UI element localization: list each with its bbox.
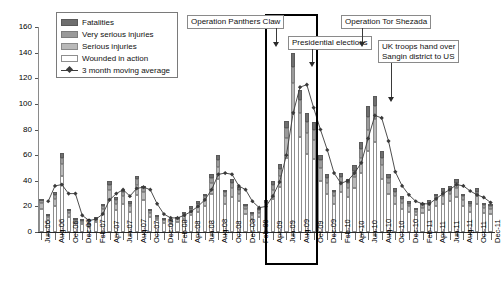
bar-segment — [454, 179, 458, 183]
legend-label-very-serious-injuries: Very serious injuries — [82, 30, 154, 39]
x-tick-label: Oct-06 — [72, 220, 80, 243]
bar-Feb-08 — [175, 217, 179, 232]
bar-segment — [121, 196, 125, 204]
x-tick-label: Aug-10 — [385, 219, 393, 243]
bar-segment — [141, 188, 145, 192]
bar-segment — [135, 176, 139, 180]
moving-average-marker — [128, 194, 132, 198]
x-tick-label: Dec-10 — [412, 219, 420, 243]
bar-segment — [434, 200, 438, 206]
bar-segment — [121, 190, 125, 193]
x-tick-label: Dec-06 — [85, 219, 93, 243]
annotation-text-sangin-line1: UK troops hand over — [382, 42, 455, 52]
x-tick-mark — [409, 233, 410, 240]
bar-segment — [196, 206, 200, 211]
bar-segment — [182, 212, 186, 214]
bar-segment — [175, 217, 179, 219]
bar-segment — [101, 204, 105, 207]
moving-average-marker — [318, 127, 322, 131]
y-tick-mark — [35, 232, 38, 233]
moving-average-marker — [461, 184, 465, 188]
bar-segment — [339, 173, 343, 177]
x-tick-mark — [69, 233, 70, 240]
highlight-box-presidential-period — [265, 14, 318, 265]
x-tick-mark — [55, 233, 56, 240]
y-tick-mark — [35, 53, 38, 54]
bar-segment — [318, 160, 322, 168]
bar-segment — [107, 185, 111, 190]
x-tick-label: Jun-07 — [126, 220, 134, 243]
bar-segment — [223, 196, 227, 204]
bar-segment — [448, 190, 452, 194]
x-tick-mark — [137, 233, 138, 240]
bar-segment — [114, 204, 118, 210]
x-tick-label: Feb-08 — [181, 219, 189, 243]
y-tick-label: 0 — [8, 228, 32, 236]
bar-segment — [332, 196, 336, 204]
bar-segment — [39, 199, 43, 201]
moving-average-marker — [482, 195, 486, 199]
chart-legend: Fatalities Very serious injuries Serious… — [56, 12, 178, 78]
x-tick-mark — [246, 233, 247, 240]
bar-segment — [189, 206, 193, 209]
bar-segment — [175, 222, 179, 232]
legend-swatch-serious-injuries — [61, 43, 78, 50]
moving-average-marker — [468, 189, 472, 193]
x-tick-label: Apr-11 — [439, 221, 447, 243]
moving-average-marker — [80, 213, 84, 217]
bar-May-10 — [359, 142, 363, 232]
legend-swatch-wounded-in-action — [61, 55, 78, 62]
moving-average-marker — [414, 199, 418, 203]
legend-item-moving-average: 3 month moving average — [61, 64, 173, 76]
bar-segment — [373, 106, 377, 119]
x-tick-label: Oct-08 — [235, 220, 243, 243]
bar-segment — [482, 205, 486, 208]
bar-segment — [203, 200, 207, 206]
x-tick-label: Apr-07 — [113, 220, 121, 243]
bar-segment — [441, 196, 445, 204]
bar-segment — [339, 182, 343, 192]
bar-segment — [230, 179, 234, 183]
legend-marker-moving-average — [61, 67, 78, 74]
bar-segment — [46, 214, 50, 216]
annotation-arrow-sangin-handover — [388, 97, 394, 102]
x-tick-label: Oct-10 — [398, 220, 406, 243]
bar-segment — [243, 209, 247, 214]
bar-segment — [237, 194, 241, 202]
x-tick-label: Jun-11 — [453, 221, 461, 243]
bar-segment — [414, 208, 418, 210]
x-tick-mark — [477, 233, 478, 240]
annotation-text-sangin-line2: Sangin district to US — [382, 52, 455, 62]
bar-segment — [448, 194, 452, 202]
x-tick-label: Jun-08 — [208, 220, 216, 243]
bar-segment — [121, 192, 125, 196]
bar-segment — [352, 177, 356, 189]
x-tick-label: Aug-06 — [58, 219, 66, 243]
bar-segment — [420, 213, 424, 232]
annotation-text-tor-shezada: Operation Tor Shezada — [345, 17, 427, 26]
bar-segment — [352, 188, 356, 232]
moving-average-marker — [148, 188, 152, 192]
moving-average-marker — [250, 199, 254, 203]
bar-segment — [257, 210, 261, 213]
moving-average-marker — [67, 191, 71, 195]
bar-segment — [448, 186, 452, 190]
bar-segment — [114, 200, 118, 204]
bar-segment — [380, 158, 384, 166]
x-tick-mark — [178, 233, 179, 240]
bar-segment — [468, 201, 472, 204]
bar-segment — [135, 179, 139, 184]
moving-average-marker — [400, 184, 404, 188]
legend-label-serious-injuries: Serious injuries — [82, 42, 137, 51]
bar-segment — [475, 196, 479, 204]
y-tick-mark — [35, 104, 38, 105]
bar-segment — [332, 190, 336, 193]
x-tick-label: Dec-11 — [494, 219, 502, 243]
bar-segment — [468, 206, 472, 211]
bar-segment — [67, 213, 71, 217]
bar-segment — [366, 117, 370, 130]
bar-segment — [189, 209, 193, 212]
bar-segment — [386, 183, 390, 193]
bar-segment — [107, 199, 111, 232]
x-tick-mark — [341, 233, 342, 240]
